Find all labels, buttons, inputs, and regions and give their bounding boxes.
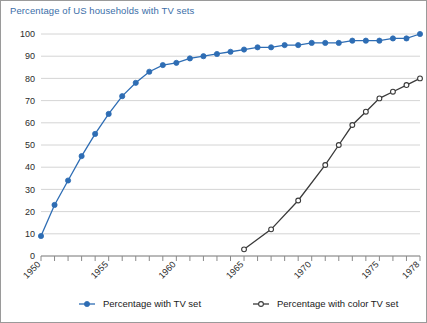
data-point bbox=[418, 76, 423, 81]
data-point bbox=[255, 45, 260, 50]
data-point bbox=[242, 247, 247, 252]
gridlines bbox=[41, 34, 420, 256]
data-point bbox=[296, 198, 301, 203]
x-axis-tick-label: 1965 bbox=[224, 259, 245, 280]
data-point bbox=[93, 131, 98, 136]
data-point bbox=[377, 38, 382, 43]
legend-label: Percentage with color TV set bbox=[277, 298, 399, 309]
y-axis-tick-label: 70 bbox=[25, 96, 35, 106]
data-point bbox=[417, 31, 422, 36]
data-point bbox=[336, 143, 341, 148]
data-point bbox=[323, 40, 328, 45]
x-axis bbox=[41, 256, 420, 261]
data-point bbox=[404, 83, 409, 88]
data-point bbox=[133, 80, 138, 85]
data-point bbox=[65, 178, 70, 183]
x-axis-tick-label: 1978 bbox=[400, 259, 421, 280]
data-point bbox=[147, 69, 152, 74]
y-axis-tick-label: 50 bbox=[25, 140, 35, 150]
x-axis-tick-label: 1950 bbox=[21, 259, 42, 280]
data-point bbox=[228, 49, 233, 54]
data-point bbox=[269, 227, 274, 232]
data-point bbox=[79, 154, 84, 159]
y-axis-tick-label: 60 bbox=[25, 118, 35, 128]
chart-frame: Percentage of US households with TV sets… bbox=[0, 0, 427, 323]
y-axis-tick-label: 10 bbox=[25, 229, 35, 239]
data-point bbox=[336, 40, 341, 45]
data-point bbox=[241, 47, 246, 52]
legend-label: Percentage with TV set bbox=[103, 298, 201, 309]
data-point bbox=[390, 36, 395, 41]
data-point bbox=[120, 94, 125, 99]
legend-item-1[interactable]: Percentage with color TV set bbox=[253, 298, 399, 309]
data-point bbox=[187, 56, 192, 61]
data-point bbox=[350, 38, 355, 43]
data-point bbox=[296, 43, 301, 48]
series-line bbox=[244, 78, 420, 249]
data-point bbox=[214, 51, 219, 56]
data-point bbox=[363, 109, 368, 114]
y-axis-tick-labels: 0102030405060708090100 bbox=[20, 29, 35, 261]
y-axis-tick-label: 100 bbox=[20, 29, 35, 39]
data-point bbox=[106, 111, 111, 116]
data-point bbox=[323, 163, 328, 168]
x-axis-tick-label: 1955 bbox=[89, 259, 110, 280]
data-point bbox=[309, 40, 314, 45]
legend-marker bbox=[259, 302, 264, 307]
x-axis-tick-label: 1975 bbox=[360, 259, 381, 280]
data-point bbox=[160, 62, 165, 67]
y-axis-tick-label: 80 bbox=[25, 74, 35, 84]
data-point bbox=[38, 233, 43, 238]
series-0 bbox=[38, 31, 422, 238]
y-axis-tick-label: 30 bbox=[25, 185, 35, 195]
data-point bbox=[404, 36, 409, 41]
series-1 bbox=[242, 76, 423, 252]
legend-marker bbox=[84, 301, 89, 306]
data-point bbox=[391, 89, 396, 94]
legend-item-0[interactable]: Percentage with TV set bbox=[79, 298, 201, 309]
data-point bbox=[350, 123, 355, 128]
data-point bbox=[269, 45, 274, 50]
y-axis-tick-label: 90 bbox=[25, 51, 35, 61]
data-series bbox=[38, 31, 422, 251]
chart-legend: Percentage with TV setPercentage with co… bbox=[79, 298, 399, 309]
data-point bbox=[282, 43, 287, 48]
x-axis-tick-label: 1960 bbox=[157, 259, 178, 280]
y-axis-tick-label: 20 bbox=[25, 207, 35, 217]
y-axis-tick-label: 40 bbox=[25, 162, 35, 172]
x-axis-tick-labels: 1950195519601965197019751978 bbox=[21, 259, 421, 280]
data-point bbox=[201, 54, 206, 59]
data-point bbox=[363, 38, 368, 43]
data-point bbox=[377, 96, 382, 101]
data-point bbox=[174, 60, 179, 65]
x-axis-tick-label: 1970 bbox=[292, 259, 313, 280]
data-point bbox=[52, 202, 57, 207]
chart-canvas: 0102030405060708090100 19501955196019651… bbox=[1, 1, 427, 323]
